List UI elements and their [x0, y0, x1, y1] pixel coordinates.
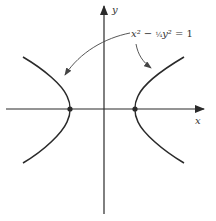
- hyperbola-left-branch: [23, 57, 70, 163]
- eq-x2: x²: [131, 28, 141, 39]
- eq-rhs: = 1: [172, 28, 193, 39]
- hyperbola-right-branch: [135, 57, 184, 163]
- vertex-right-point: [132, 106, 137, 111]
- x-axis-label: x: [195, 115, 201, 126]
- hyperbola-diagram: x y x² − ¼y² = 1: [0, 0, 216, 221]
- eq-y2: y²: [161, 28, 172, 39]
- pointer-arrow-right: [136, 44, 151, 68]
- eq-minus: −: [141, 28, 156, 39]
- y-axis-label: y: [111, 4, 118, 15]
- equation-label: x² − ¼y² = 1: [131, 28, 193, 39]
- vertex-left-point: [67, 106, 72, 111]
- pointer-arrow-left: [65, 33, 130, 75]
